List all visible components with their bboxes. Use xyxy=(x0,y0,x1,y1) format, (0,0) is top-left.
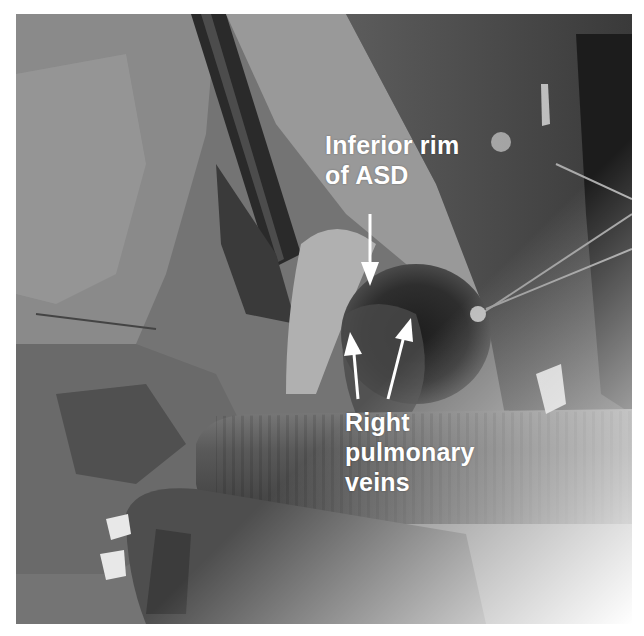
label-inferior-rim: Inferior rim of ASD xyxy=(325,130,459,190)
label-line: pulmonary xyxy=(345,437,475,467)
photo-scene xyxy=(16,14,632,624)
label-line: Inferior rim xyxy=(325,130,459,160)
label-right-pulmonary-veins: Right pulmonary veins xyxy=(345,407,475,497)
surgical-photo: Inferior rim of ASD Right pulmonary vein… xyxy=(16,14,632,624)
label-line: veins xyxy=(345,467,475,497)
label-line: of ASD xyxy=(325,160,459,190)
label-line: Right xyxy=(345,407,475,437)
